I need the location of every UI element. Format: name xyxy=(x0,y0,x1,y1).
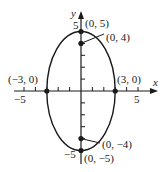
focus-bottom-point xyxy=(78,136,83,141)
focus-top-point xyxy=(78,41,83,46)
label-focus-top: (0, 4) xyxy=(106,31,130,44)
x-tick-label-pos5: 5 xyxy=(134,93,140,105)
ellipse-graph: y x −5 5 5 −5 (0, 5) (0, 4) (−3, 0) (3, … xyxy=(0,0,164,172)
covertex-left-point xyxy=(44,88,49,93)
y-axis-label: y xyxy=(70,7,76,19)
vertex-bottom-point xyxy=(78,148,83,153)
y-axis-arrow-icon xyxy=(78,11,84,19)
label-covertex-left: (−3, 0) xyxy=(8,73,38,86)
y-tick-label-neg5: −5 xyxy=(64,148,76,160)
x-axis-arrow-icon xyxy=(150,88,158,94)
y-tick-label-pos5: 5 xyxy=(73,19,79,31)
label-vertex-bottom: (0, −5) xyxy=(84,152,114,165)
vertex-top-point xyxy=(78,29,83,34)
covertex-right-point xyxy=(113,88,118,93)
focus-bottom-leader xyxy=(81,139,100,143)
label-covertex-right: (3, 0) xyxy=(117,73,141,86)
x-axis-label: x xyxy=(152,76,158,88)
label-vertex-top: (0, 5) xyxy=(85,17,109,30)
x-tick-label-neg5: −5 xyxy=(14,93,26,105)
label-focus-bottom: (0, −4) xyxy=(102,138,132,151)
